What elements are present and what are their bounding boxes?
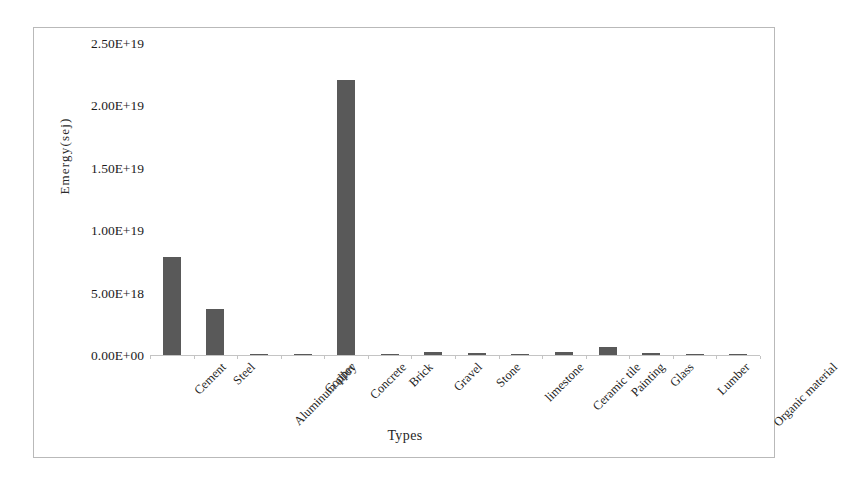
x-axis-label-text: Brick	[406, 360, 436, 390]
bar-copper	[294, 354, 312, 356]
x-axis-label-stone: Stone	[493, 360, 524, 391]
plot-area	[150, 44, 760, 356]
y-axis-tick-label: 2.00E+19	[66, 98, 144, 114]
x-axis-label-cement: Cement	[191, 360, 229, 398]
x-axis-title: Types	[34, 428, 776, 444]
x-axis-label-text: Gravel	[451, 360, 486, 395]
bar-brick	[381, 354, 399, 356]
bar-limestone	[511, 354, 529, 356]
x-axis-label-text: Steel	[231, 360, 259, 388]
bar-aluminum-alloy	[250, 354, 268, 356]
x-axis-label-text: Copper	[321, 360, 358, 397]
bar-ceramic-tile	[555, 352, 573, 355]
x-axis-category-labels: CementSteelAluminum alloyCopperConcreteB…	[150, 358, 790, 468]
y-axis-tick-label: 5.00E+18	[66, 286, 144, 302]
y-axis-tick-label: 0.00E+00	[66, 348, 144, 364]
y-axis-tick-labels: 0.00E+005.00E+181.00E+191.50E+192.00E+19…	[66, 28, 144, 457]
x-axis-label-text: Stone	[493, 360, 524, 391]
bar-concrete	[337, 80, 355, 355]
bar-glass	[642, 353, 660, 355]
bar-painting	[599, 347, 617, 355]
x-axis-label-text: Cement	[191, 360, 229, 398]
x-axis-label-steel: Steel	[231, 360, 259, 388]
y-axis-tick-label: 2.50E+19	[66, 36, 144, 52]
x-axis-label-text: Lumber	[714, 360, 753, 399]
bar-steel	[206, 309, 224, 355]
x-axis-label-text: limestone	[543, 360, 588, 405]
x-axis-label-glass: Glass	[667, 360, 697, 390]
bar-lumber	[686, 354, 704, 356]
x-axis-label-copper: Copper	[321, 360, 358, 397]
chart-figure: Emergy(sej) 0.00E+005.00E+181.00E+191.50…	[33, 27, 775, 458]
x-axis-label-lumber: Lumber	[714, 360, 753, 399]
y-axis-tick-label: 1.00E+19	[66, 223, 144, 239]
x-axis-label-brick: Brick	[406, 360, 436, 390]
x-axis-label-text: Organic material	[771, 360, 841, 430]
x-axis-label-organic-material: Organic material	[771, 360, 841, 430]
y-axis-tick-label: 1.50E+19	[66, 161, 144, 177]
bar-organic-material	[729, 354, 747, 356]
x-axis-label-concrete: Concrete	[367, 360, 410, 403]
bar-stone	[468, 353, 486, 355]
x-axis-label-gravel: Gravel	[451, 360, 486, 395]
bar-cement	[163, 257, 181, 355]
x-axis-label-limestone: limestone	[543, 360, 588, 405]
x-axis-label-text: Concrete	[367, 360, 410, 403]
bar-gravel	[424, 352, 442, 355]
x-axis-label-text: Glass	[667, 360, 697, 390]
